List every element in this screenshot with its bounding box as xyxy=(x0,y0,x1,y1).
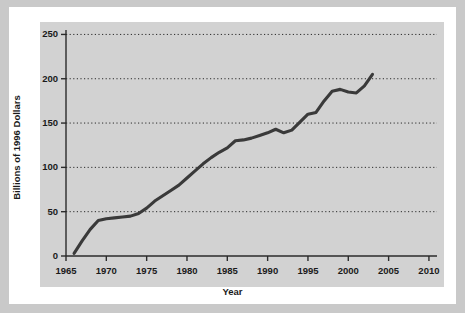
data-line-series-spending xyxy=(74,74,372,253)
y-tick-label-150: 150 xyxy=(20,117,58,128)
x-tick-marks-group xyxy=(66,256,429,261)
y-tick-label-0: 0 xyxy=(20,250,58,261)
y-tick-marks-group xyxy=(61,34,66,256)
chart-figure: 050100150200250 196519701975198019851990… xyxy=(0,0,465,313)
x-axis-title: Year xyxy=(0,286,465,297)
y-axis-title: Billions of 1996 Dollars xyxy=(11,63,22,233)
y-tick-label-50: 50 xyxy=(20,206,58,217)
y-tick-label-250: 250 xyxy=(20,28,58,39)
x-tick-label-2010: 2010 xyxy=(405,265,453,276)
y-tick-label-200: 200 xyxy=(20,73,58,84)
y-tick-label-100: 100 xyxy=(20,161,58,172)
gridlines-group xyxy=(66,34,437,211)
